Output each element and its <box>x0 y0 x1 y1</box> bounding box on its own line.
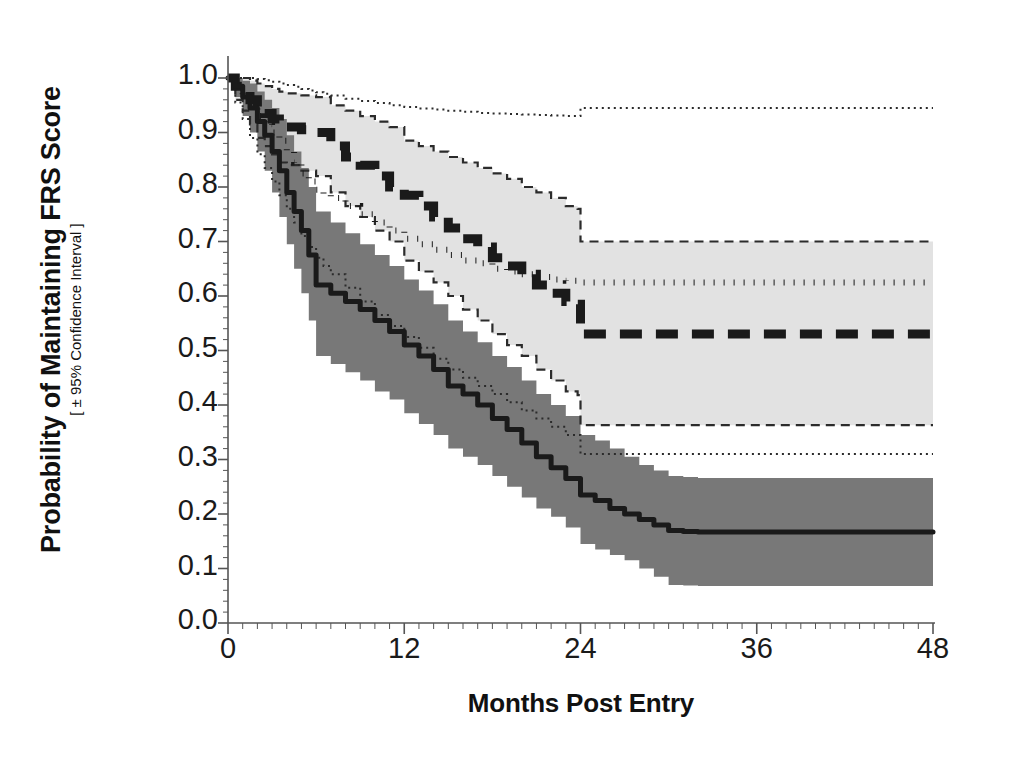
x-tick-label: 24 <box>541 632 621 665</box>
confidence-bands <box>228 78 933 586</box>
plot-area <box>0 0 1009 767</box>
figure-root: Probability of Maintaining FRS Score [ ±… <box>0 0 1009 767</box>
x-tick-label: 48 <box>893 632 973 665</box>
x-tick-label: 36 <box>717 632 797 665</box>
x-tick-label: 12 <box>364 632 444 665</box>
x-tick-label: 0 <box>188 632 268 665</box>
